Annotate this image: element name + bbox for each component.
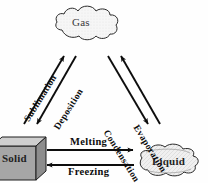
arrow-evaporation — [121, 56, 160, 124]
phase-change-diagram: Gas Solid Liquid Sublimation Deposition … — [0, 0, 208, 183]
arrow-condensation — [108, 56, 148, 124]
arrow-label-freezing: Freezing — [68, 166, 109, 177]
node-label-solid: Solid — [2, 152, 27, 164]
arrow-label-melting: Melting — [70, 136, 107, 147]
node-label-gas: Gas — [72, 16, 90, 28]
